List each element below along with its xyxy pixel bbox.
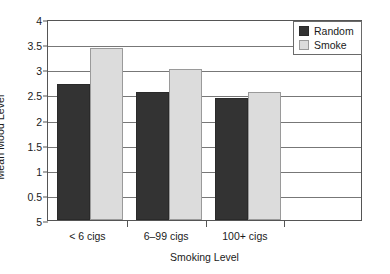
y-tick-label: 4 xyxy=(36,16,48,27)
x-tick-label: 6–99 cigs xyxy=(144,231,189,242)
legend-item-label: Smoke xyxy=(314,40,347,51)
x-tick-mark xyxy=(206,220,207,227)
bar-chart-figure: Mean Mood Level 43.532.521.510.55 < 6 ci… xyxy=(0,0,390,274)
bar-smoke-3 xyxy=(248,92,281,220)
y-tick-label: 5 xyxy=(36,217,48,228)
y-tick-label: 2 xyxy=(36,116,48,127)
y-tick-label: 1.5 xyxy=(27,141,48,152)
bar-smoke-2 xyxy=(169,69,202,220)
legend-swatch-icon xyxy=(299,40,309,50)
bar-random-3 xyxy=(215,98,248,220)
bar-random-1 xyxy=(57,84,90,220)
y-tick-label: 0.5 xyxy=(27,192,48,203)
legend-item-label: Random xyxy=(314,26,354,37)
x-axis-title: Smoking Level xyxy=(47,252,362,263)
y-tick-label: 3.5 xyxy=(27,41,48,52)
chart-legend: RandomSmoke xyxy=(293,21,362,55)
legend-swatch-icon xyxy=(299,26,309,36)
legend-item-smoke[interactable]: Smoke xyxy=(299,40,354,51)
x-tick-label: < 6 cigs xyxy=(69,231,105,242)
bar-random-2 xyxy=(136,92,169,220)
y-tick-label: 2.5 xyxy=(27,91,48,102)
x-tick-mark xyxy=(127,220,128,227)
legend-item-random[interactable]: Random xyxy=(299,26,354,37)
bar-smoke-1 xyxy=(90,48,123,220)
x-tick-mark xyxy=(284,220,285,227)
x-tick-label: 100+ cigs xyxy=(222,231,267,242)
y-tick-label: 1 xyxy=(36,167,48,178)
y-tick-label: 3 xyxy=(36,66,48,77)
